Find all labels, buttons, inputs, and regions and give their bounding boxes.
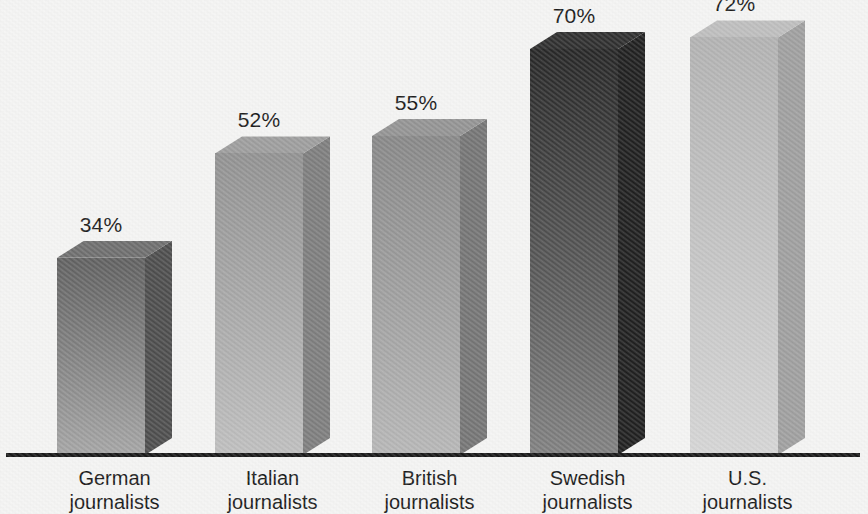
bar-front-face — [372, 136, 460, 455]
bar-side-face — [618, 32, 645, 455]
bar-side-face — [778, 20, 805, 455]
category-label-line2: journalists — [354, 490, 505, 514]
category-label-line1: German — [39, 466, 190, 490]
bar-chart: 34%Germanjournalists52%Italianjournalist… — [0, 0, 868, 514]
bar-side-face — [303, 136, 330, 455]
category-label-line2: journalists — [39, 490, 190, 514]
bar-value-label: 34% — [57, 214, 145, 235]
bar-front-face — [530, 49, 618, 455]
x-axis-line — [6, 453, 860, 457]
bar-side-face — [460, 119, 487, 455]
category-label-line2: journalists — [197, 490, 348, 514]
bar-value-label: 70% — [530, 5, 618, 26]
category-label: Germanjournalists — [39, 466, 190, 514]
bar-front-face — [57, 258, 145, 455]
bar-value-label: 52% — [215, 109, 303, 130]
category-label: Britishjournalists — [354, 466, 505, 514]
category-label-line1: U.S. — [672, 466, 823, 490]
category-label: U.S.journalists — [672, 466, 823, 514]
category-label: Italianjournalists — [197, 466, 348, 514]
category-label-line1: British — [354, 466, 505, 490]
category-label-line1: Swedish — [512, 466, 663, 490]
bar-value-label: 55% — [372, 92, 460, 113]
bar-value-label: 72% — [690, 0, 778, 14]
category-label-line1: Italian — [197, 466, 348, 490]
bar-side-face — [145, 241, 172, 455]
category-label-line2: journalists — [672, 490, 823, 514]
category-label: Swedishjournalists — [512, 466, 663, 514]
bar-front-face — [690, 37, 778, 455]
category-label-line2: journalists — [512, 490, 663, 514]
bar-front-face — [215, 153, 303, 455]
